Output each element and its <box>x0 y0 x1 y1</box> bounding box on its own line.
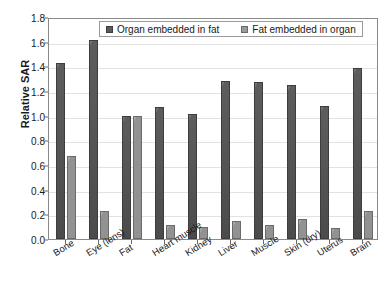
plot-area <box>48 18 378 240</box>
y-axis-tick-label: 1.0 <box>11 111 45 122</box>
x-axis-tick-label: Fat <box>117 242 134 259</box>
legend-label: Organ embedded in fat <box>117 24 219 35</box>
y-axis-tick-label: 1.8 <box>11 13 45 24</box>
x-axis-tick-label: Bone <box>51 237 76 258</box>
legend-item-series-0: Organ embedded in fat <box>106 24 219 35</box>
y-axis-tick-label: 0.6 <box>11 161 45 172</box>
legend-label: Fat embedded in organ <box>252 24 355 35</box>
legend-swatch-icon <box>241 26 248 33</box>
y-axis-tick-label: 0.8 <box>11 136 45 147</box>
y-axis-tick-label: 0.0 <box>11 235 45 246</box>
x-axis-tick-label: Brain <box>348 237 373 258</box>
y-axis-tick-label: 1.4 <box>11 62 45 73</box>
y-axis-tick-label: 0.2 <box>11 210 45 221</box>
legend-item-series-1: Fat embedded in organ <box>241 24 355 35</box>
bar-group <box>49 19 377 239</box>
chart-figure: Relative SAR 0.00.20.40.60.81.01.21.41.6… <box>0 0 389 302</box>
y-axis-tick-label: 1.6 <box>11 37 45 48</box>
y-axis-tick-label: 0.4 <box>11 185 45 196</box>
bar-series-container <box>49 19 377 239</box>
x-axis-tick-label: Liver <box>216 238 239 258</box>
legend-swatch-icon <box>106 26 113 33</box>
bar <box>353 68 362 239</box>
bar <box>364 211 373 239</box>
y-axis-tick-label: 1.2 <box>11 87 45 98</box>
chart-legend: Organ embedded in fat Fat embedded in or… <box>99 21 363 37</box>
